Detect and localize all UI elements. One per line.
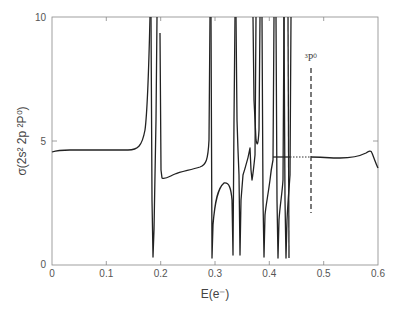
y-axis-label: σ(2s² 2p ²P⁰) (15, 106, 29, 175)
svg-text:0.2: 0.2 (154, 268, 168, 279)
threshold-label: ³P⁰ (305, 52, 318, 63)
svg-text:0.6: 0.6 (371, 268, 385, 279)
x-tick-labels: 0 0.1 0.2 0.3 0.4 0.5 0.6 (49, 268, 385, 279)
svg-text:0: 0 (40, 259, 46, 270)
svg-text:0: 0 (49, 268, 55, 279)
svg-text:0.1: 0.1 (99, 268, 113, 279)
svg-text:0.3: 0.3 (208, 268, 222, 279)
data-curve (52, 17, 378, 258)
chart: 0 0.1 0.2 0.3 0.4 0.5 0.6 0 5 10 E(e⁻) σ… (0, 0, 402, 310)
x-ticks (52, 17, 378, 265)
svg-text:10: 10 (35, 12, 47, 23)
svg-text:0.5: 0.5 (317, 268, 331, 279)
plot-frame (52, 17, 378, 265)
y-tick-labels: 0 5 10 (35, 12, 47, 270)
svg-text:5: 5 (40, 136, 46, 147)
svg-text:0.4: 0.4 (262, 268, 276, 279)
x-axis-label: E(e⁻) (201, 287, 230, 301)
